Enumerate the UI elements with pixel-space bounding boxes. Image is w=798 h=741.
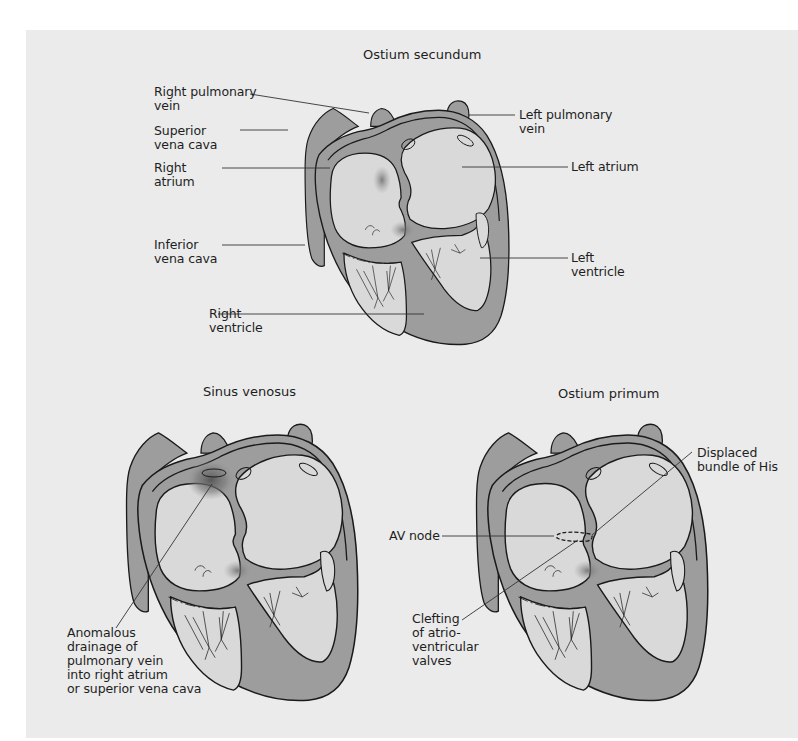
label-right-atrium: Right atrium <box>154 161 195 189</box>
label-right-pulmonary-vein: Right pulmonary vein <box>154 85 257 113</box>
title-ostium-primum: Ostium primum <box>558 386 660 401</box>
label-superior-vena-cava: Superior vena cava <box>154 124 217 152</box>
heart-ostium-secundum <box>305 101 509 345</box>
label-anomalous-drainage: Anomalous drainage of pulmonary vein int… <box>67 626 201 696</box>
label-left-atrium: Left atrium <box>571 160 639 174</box>
label-av-node: AV node <box>389 529 440 543</box>
title-ostium-secundum: Ostium secundum <box>363 47 481 62</box>
title-sinus-venosus: Sinus venosus <box>203 384 296 399</box>
label-left-pulmonary-vein: Left pulmonary vein <box>519 108 612 136</box>
label-right-ventricle: Right ventricle <box>209 307 263 335</box>
label-displaced-bundle-of-his: Displaced bundle of His <box>697 446 778 474</box>
label-inferior-vena-cava: Inferior vena cava <box>154 238 217 266</box>
label-left-ventricle: Left ventricle <box>571 251 625 279</box>
label-clefting-av-valves: Clefting of atrio- ventricular valves <box>412 612 479 668</box>
heart-ostium-primum <box>477 424 708 700</box>
